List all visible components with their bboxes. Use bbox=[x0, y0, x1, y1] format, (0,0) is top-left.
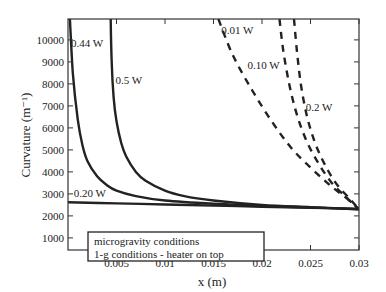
x-tick-label: 0.025 bbox=[298, 257, 323, 269]
curvature-chart: 0.44 W0.5 W0.20 W0.01 W0.10 W0.2 W 0.005… bbox=[0, 0, 386, 292]
y-tick-label: 1000 bbox=[42, 232, 65, 244]
x-tick-label: 0.03 bbox=[349, 257, 369, 269]
legend-entry-1g: 1-g conditions - heater on top bbox=[94, 248, 224, 260]
series-line-0-10-w bbox=[280, 19, 360, 209]
legend: microgravity conditions 1-g conditions -… bbox=[88, 232, 264, 261]
curve-label: 0.01 W bbox=[221, 24, 254, 36]
curve-label: 0.20 W bbox=[74, 187, 107, 199]
curve-label: 0.5 W bbox=[116, 74, 143, 86]
y-tick-label: 5000 bbox=[42, 144, 65, 156]
y-tick-label: 9000 bbox=[42, 56, 65, 68]
y-axis-label-text: Curvature (m⁻¹) bbox=[18, 93, 33, 178]
series-line-0-01-w bbox=[218, 19, 359, 209]
series-line-0-5-w bbox=[111, 19, 359, 209]
y-tick-label: 8000 bbox=[42, 78, 65, 90]
y-tick-label: 7000 bbox=[42, 100, 65, 112]
y-tick-label: 4000 bbox=[42, 166, 65, 178]
legend-entry-microgravity: microgravity conditions bbox=[94, 235, 199, 247]
curve-label: 0.10 W bbox=[247, 59, 280, 71]
y-axis-label: Curvature (m⁻¹) bbox=[18, 93, 33, 178]
y-tick-label: 10000 bbox=[37, 34, 65, 46]
y-tick-label: 3000 bbox=[42, 188, 65, 200]
y-tick-label: 2000 bbox=[42, 210, 65, 222]
x-axis-label: x (m) bbox=[198, 274, 227, 289]
curve-label: 0.2 W bbox=[306, 101, 333, 113]
curve-label: 0.44 W bbox=[71, 37, 104, 49]
y-tick-label: 6000 bbox=[42, 122, 65, 134]
series-line-0-44-w bbox=[70, 19, 359, 209]
series-layer bbox=[68, 19, 359, 209]
